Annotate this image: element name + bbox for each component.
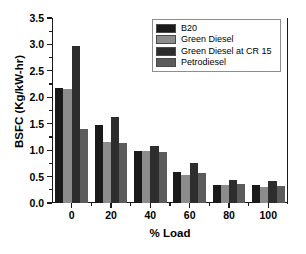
legend: B20Green DieselGreen Diesel at CR 15Petr… <box>152 19 281 72</box>
legend-item[interactable]: Green Diesel at CR 15 <box>156 46 276 57</box>
x-axis-tick-minor <box>209 203 210 206</box>
bar <box>268 181 276 203</box>
x-axis-tick <box>189 203 190 208</box>
bar <box>63 89 71 203</box>
x-axis-tick-minor <box>169 203 170 206</box>
legend-label: Green Diesel <box>181 35 234 44</box>
bar <box>237 184 245 203</box>
bar <box>198 173 206 203</box>
x-tick-label: 20 <box>89 210 133 221</box>
x-axis-tick <box>150 203 151 208</box>
x-tick-label: 0 <box>50 210 94 221</box>
bar <box>252 185 260 203</box>
bar <box>72 46 80 204</box>
y-tick-label: 3.0 <box>7 39 47 50</box>
bar <box>260 187 268 203</box>
y-tick-label: 0.5 <box>7 172 47 183</box>
x-axis-tick-minor <box>91 203 92 206</box>
y-tick-label: 2.5 <box>7 66 47 77</box>
legend-item[interactable]: Petrodiesel <box>156 58 276 69</box>
legend-item[interactable]: B20 <box>156 23 276 34</box>
legend-item[interactable]: Green Diesel <box>156 35 276 46</box>
x-tick-label: 60 <box>168 210 212 221</box>
x-axis-tick-minor <box>248 203 249 206</box>
legend-swatch-icon <box>156 58 176 67</box>
bar <box>229 180 237 203</box>
bsfc-bar-chart: BSFC (Kg/kW-hr) 0.00.51.01.52.02.53.03.5… <box>0 0 306 254</box>
bar <box>213 185 221 203</box>
bar <box>150 146 158 203</box>
bar <box>95 125 103 203</box>
legend-label: Green Diesel at CR 15 <box>181 47 272 56</box>
x-axis-tick <box>228 203 229 208</box>
bar <box>55 88 63 203</box>
bar <box>190 163 198 203</box>
x-axis-title: % Load <box>52 227 288 239</box>
legend-swatch-icon <box>156 35 176 44</box>
x-tick-label: 40 <box>128 210 172 221</box>
x-axis-tick <box>71 203 72 208</box>
x-axis-tick <box>110 203 111 208</box>
bar <box>134 151 142 203</box>
legend-swatch-icon <box>156 24 176 33</box>
bar <box>142 151 150 203</box>
legend-label: B20 <box>181 24 197 33</box>
bar <box>181 175 189 203</box>
legend-swatch-icon <box>156 47 176 56</box>
bar <box>173 172 181 203</box>
bar <box>159 152 167 203</box>
y-tick-label: 0.0 <box>7 198 47 209</box>
y-tick-label: 1.0 <box>7 145 47 156</box>
x-tick-label: 100 <box>246 210 290 221</box>
bar <box>103 142 111 203</box>
bar <box>277 186 285 203</box>
x-axis-tick-minor <box>130 203 131 206</box>
bar <box>80 129 88 203</box>
x-tick-label: 80 <box>207 210 251 221</box>
x-axis-tick <box>268 203 269 208</box>
legend-label: Petrodiesel <box>181 58 226 67</box>
bar <box>221 185 229 203</box>
y-tick-label: 2.0 <box>7 92 47 103</box>
bar <box>119 143 127 203</box>
bar <box>111 117 119 203</box>
y-tick-label: 3.5 <box>7 13 47 24</box>
y-tick-label: 1.5 <box>7 119 47 130</box>
